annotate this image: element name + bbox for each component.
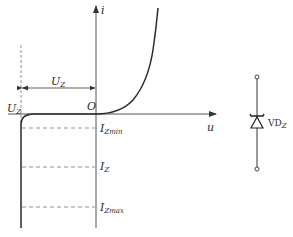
top-terminal-icon xyxy=(255,75,259,79)
zener-diode-symbol xyxy=(250,75,264,171)
izmin-label: IZmin xyxy=(99,122,123,136)
bottom-terminal-icon xyxy=(255,167,259,171)
current-axis-label: i xyxy=(101,4,105,17)
zener-iv-diagram: i u O UZ UZ IZmin IZ IZmax VDZ xyxy=(0,0,293,237)
diode-triangle-icon xyxy=(251,117,263,128)
voltage-axis-label: u xyxy=(207,121,214,134)
izmax-label: IZmax xyxy=(99,201,124,215)
iz-label: IZ xyxy=(99,160,109,174)
iv-curve xyxy=(21,8,158,228)
origin-label: O xyxy=(87,100,96,113)
diode-label: VDZ xyxy=(267,118,287,130)
uz-axis-label: UZ xyxy=(7,102,21,116)
uz-dimension-label: UZ xyxy=(51,75,65,89)
